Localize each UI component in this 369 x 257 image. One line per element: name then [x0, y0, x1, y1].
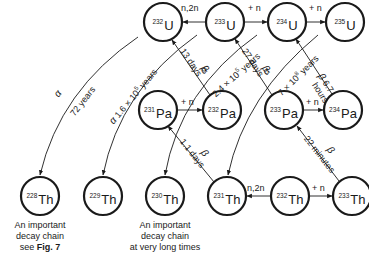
node-u235: 235U	[325, 12, 365, 32]
label-plus-n-pa233: + n	[306, 97, 319, 107]
label-plus-n-u234: + n	[309, 3, 322, 13]
node-th231: 231Th	[207, 186, 247, 206]
label-plus-n-pa231: + n	[181, 97, 194, 107]
node-th233: 233Th	[332, 186, 369, 206]
node-pa233: 233Pa	[264, 100, 304, 120]
node-pa231: 231Pa	[138, 100, 178, 120]
node-th228: 228Th	[20, 186, 60, 206]
node-th232: 232Th	[270, 186, 310, 206]
node-th230: 230Th	[145, 186, 185, 206]
label-plus-n-u233: + n	[248, 3, 261, 13]
label-n2n-bottom: n,2n	[247, 183, 265, 193]
node-u234: 234U	[267, 12, 307, 32]
node-th229: 229Th	[83, 186, 123, 206]
label-plus-n-th232: + n	[312, 183, 325, 193]
caption-th228-chain: An important decay chain see Fig. 7	[14, 220, 65, 253]
label-n2n-top: n,2n	[181, 3, 199, 13]
node-pa234: 234Pa	[323, 100, 363, 120]
node-u233: 233U	[205, 12, 245, 32]
diagram-canvas	[0, 0, 369, 257]
node-pa232: 232Pa	[202, 100, 242, 120]
node-u232: 232U	[143, 12, 183, 32]
caption-th230-chain: An important decay chain at very long ti…	[130, 220, 201, 253]
